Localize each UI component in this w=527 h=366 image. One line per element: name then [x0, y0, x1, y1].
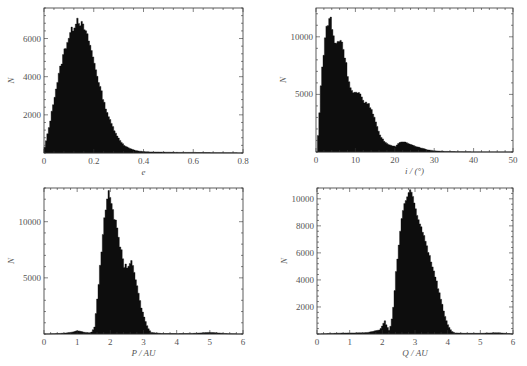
x-tick-label: 6: [511, 337, 516, 347]
y-axis-label: N: [6, 77, 16, 85]
x-tick-label: 0: [42, 156, 47, 166]
panel-P: 0123456500010000P / AUN: [6, 188, 246, 358]
y-tick-label: 4000: [23, 72, 42, 82]
x-tick-label: 3: [141, 337, 146, 347]
x-tick-label: 50: [509, 155, 519, 165]
x-tick-label: 6: [241, 337, 246, 347]
x-tick-label: 5: [478, 337, 483, 347]
x-tick-label: 40: [469, 155, 479, 165]
y-axis-label: N: [278, 76, 288, 84]
panel-i: 01020304050500010000i / (°)N: [278, 8, 518, 176]
x-axis-label: e: [142, 167, 146, 177]
y-axis-label: N: [279, 257, 289, 265]
x-tick-label: 0: [314, 155, 319, 165]
x-tick-label: 5: [208, 337, 213, 347]
y-tick-label: 5000: [295, 89, 314, 99]
x-tick-label: 0.6: [188, 156, 200, 166]
y-tick-label: 6000: [296, 248, 315, 258]
figure-canvas: 00.20.40.60.8200040006000eN 010203040505…: [0, 0, 527, 366]
y-tick-label: 10000: [291, 32, 314, 42]
y-tick-label: 2000: [23, 110, 42, 120]
y-tick-label: 5000: [23, 273, 42, 283]
x-tick-label: 30: [430, 155, 440, 165]
histogram-bars: [44, 18, 243, 153]
x-tick-label: 2: [380, 337, 385, 347]
y-tick-label: 10000: [292, 194, 315, 204]
y-axis-label: N: [6, 257, 16, 265]
y-tick-label: 4000: [296, 275, 315, 285]
x-axis-label: i / (°): [405, 166, 424, 176]
x-tick-label: 4: [174, 337, 179, 347]
histogram-bars: [316, 17, 513, 152]
x-tick-label: 1: [347, 337, 352, 347]
x-axis-label: Q / AU: [402, 348, 428, 358]
x-tick-label: 0: [42, 337, 47, 347]
x-tick-label: 1: [75, 337, 80, 347]
x-tick-label: 0.8: [237, 156, 249, 166]
histogram-bars: [317, 190, 513, 334]
x-tick-label: 0: [315, 337, 320, 347]
x-tick-label: 3: [413, 337, 418, 347]
x-tick-label: 4: [445, 337, 450, 347]
x-tick-label: 2: [108, 337, 113, 347]
histogram-bars: [44, 191, 243, 335]
y-tick-label: 10000: [19, 217, 42, 227]
y-tick-label: 6000: [23, 34, 42, 44]
y-tick-label: 2000: [296, 302, 315, 312]
x-tick-label: 20: [390, 155, 400, 165]
x-tick-label: 10: [351, 155, 361, 165]
panel-e: 00.20.40.60.8200040006000eN: [6, 8, 249, 177]
x-tick-label: 0.4: [138, 156, 150, 166]
x-axis-label: P / AU: [130, 348, 156, 358]
y-tick-label: 8000: [296, 221, 315, 231]
panel-Q: 0123456200040006000800010000Q / AUN: [279, 188, 516, 358]
x-tick-label: 0.2: [88, 156, 99, 166]
